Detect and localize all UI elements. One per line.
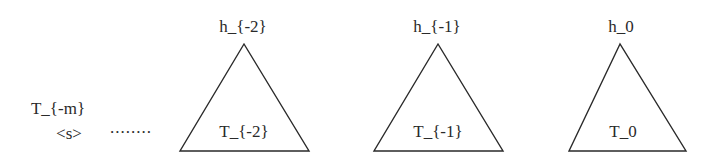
head-label-1: h_{-2}: [219, 17, 266, 37]
subtree-label-1: T_{-2}: [219, 122, 268, 142]
head-label-3: h_0: [608, 17, 634, 37]
head-label-2: h_{-1}: [413, 17, 460, 37]
subtree-label-3: T_0: [609, 122, 636, 142]
diagram-canvas: [0, 0, 714, 162]
start-token: <s>: [56, 124, 82, 144]
stack-label: T_{-m}: [31, 99, 85, 119]
subtree-label-2: T_{-1}: [413, 122, 462, 142]
ellipsis: ........: [110, 118, 152, 138]
